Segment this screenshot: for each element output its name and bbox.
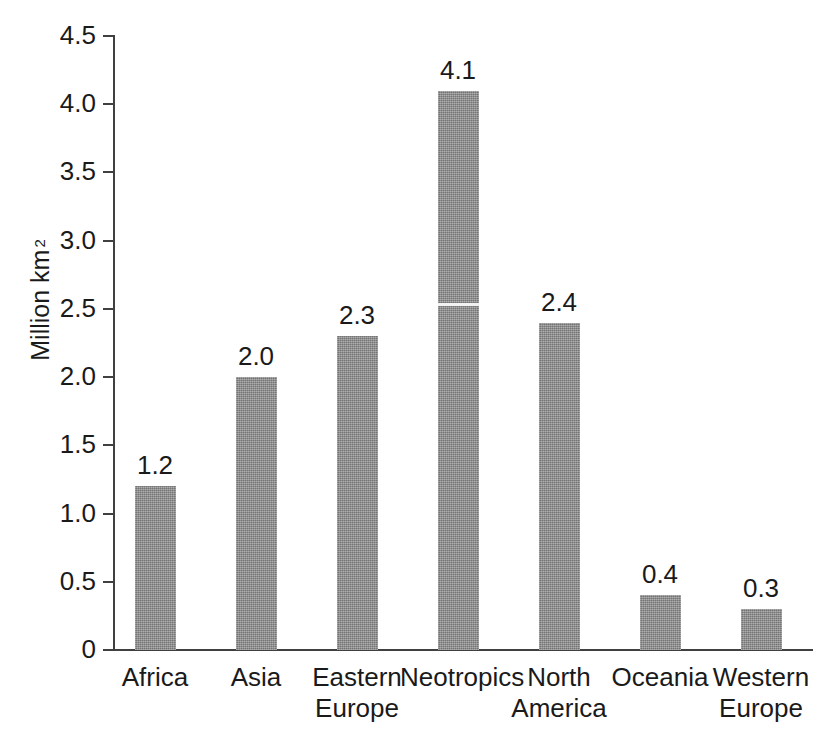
bars-layer: 1.2Africa2.0Asia2.3EasternEurope4.1Neotr… — [0, 0, 831, 737]
x-axis-category-label-line: Europe — [299, 693, 415, 724]
x-axis-category-label: NorthAmerica — [501, 662, 617, 724]
bar-value-label: 4.1 — [408, 57, 508, 83]
x-axis-category-label-line: Western — [713, 662, 809, 692]
x-axis-category-label: EasternEurope — [299, 662, 415, 724]
bar-value-label: 2.3 — [307, 302, 407, 328]
bar-value-label: 0.3 — [711, 575, 811, 601]
x-axis-category-label-line: Eastern — [312, 662, 402, 692]
bar — [438, 91, 479, 650]
bar — [539, 323, 580, 650]
bar-value-label: 0.4 — [610, 561, 710, 587]
x-axis-category-label: Oceania — [602, 662, 718, 693]
x-axis-category-label: Africa — [97, 662, 213, 693]
bar — [236, 377, 277, 650]
x-axis-category-label: WesternEurope — [703, 662, 819, 724]
bar — [640, 595, 681, 650]
bar — [741, 609, 782, 650]
scan-line-artifact — [438, 303, 479, 306]
x-axis-category-label: Asia — [198, 662, 314, 693]
x-axis-category-label-line: North — [527, 662, 591, 692]
x-axis-category-label-line: Oceania — [612, 662, 709, 692]
x-axis-category-label-line: America — [501, 693, 617, 724]
bar-value-label: 2.4 — [509, 289, 609, 315]
bar-value-label: 2.0 — [206, 343, 306, 369]
x-axis-category-label-line: Africa — [122, 662, 188, 692]
bar — [337, 336, 378, 650]
x-axis-category-label-line: Europe — [703, 693, 819, 724]
bar-chart: Million km2 00.51.01.52.02.53.03.54.04.5… — [0, 0, 831, 737]
x-axis-category-label-line: Asia — [231, 662, 282, 692]
x-axis-category-label: Neotropics — [400, 662, 516, 693]
bar — [135, 486, 176, 650]
bar-value-label: 1.2 — [105, 452, 205, 478]
